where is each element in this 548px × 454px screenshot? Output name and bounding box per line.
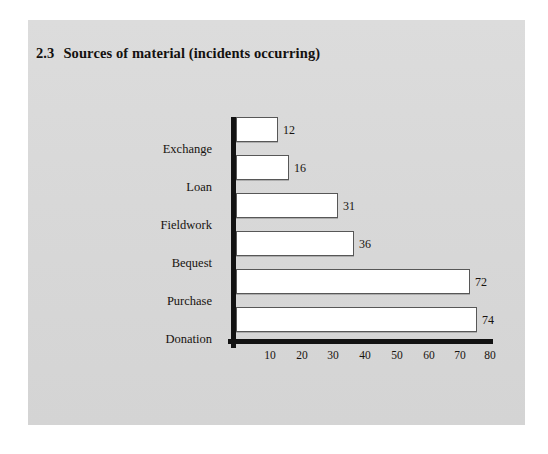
x-tick-80: 80: [475, 349, 505, 361]
bar-purchase[interactable]: [236, 269, 470, 294]
category-label-fieldwork: Fieldwork: [62, 218, 212, 233]
x-tick-70: 70: [445, 349, 475, 361]
bar-fieldwork[interactable]: [236, 193, 338, 218]
category-label-bequest: Bequest: [62, 256, 212, 271]
bar-donation[interactable]: [236, 307, 477, 332]
x-tick-10: 10: [255, 349, 285, 361]
chart-page: 2.3Sources of material (incidents occurr…: [0, 0, 548, 454]
bar-value-exchange: 12: [283, 123, 295, 138]
plot-area: Exchange Loan Fieldwork Bequest Purchase…: [28, 20, 525, 425]
category-label-purchase: Purchase: [62, 294, 212, 309]
bar-value-fieldwork: 31: [343, 199, 355, 214]
bar-value-bequest: 36: [359, 237, 371, 252]
x-tick-30: 30: [318, 349, 348, 361]
bar-loan[interactable]: [236, 155, 289, 180]
category-label-loan: Loan: [62, 180, 212, 195]
x-tick-50: 50: [382, 349, 412, 361]
chart-panel: 2.3Sources of material (incidents occurr…: [28, 20, 525, 425]
bar-bequest[interactable]: [236, 231, 354, 256]
category-label-donation: Donation: [62, 332, 212, 347]
bar-value-loan: 16: [294, 161, 306, 176]
y-axis-line: [231, 117, 236, 348]
x-tick-20: 20: [287, 349, 317, 361]
bar-value-purchase: 72: [475, 275, 487, 290]
category-label-exchange: Exchange: [62, 142, 212, 157]
x-tick-60: 60: [414, 349, 444, 361]
bar-exchange[interactable]: [236, 117, 278, 142]
x-axis-line: [228, 339, 493, 344]
bar-value-donation: 74: [482, 313, 494, 328]
x-tick-40: 40: [350, 349, 380, 361]
